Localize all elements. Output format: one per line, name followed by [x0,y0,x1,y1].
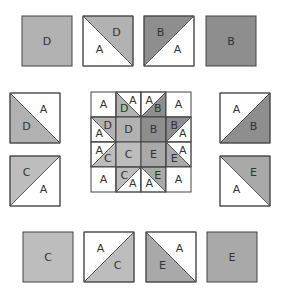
patch-label: D [120,102,128,115]
patch-label: B [150,123,158,136]
left-col-patch: CA [10,156,60,206]
bottom-row-patch: C [23,232,73,282]
patch-label: A [179,144,187,157]
top-row-patch: D [22,16,72,66]
patch-label: A [97,242,105,255]
patch-label: B [154,102,162,115]
patch-label: A [129,177,137,190]
bottom-row-patch: E [207,232,257,282]
center-block-cell: A [166,92,191,117]
patch-label: B [170,119,178,132]
patch-label: C [44,251,52,264]
patch-label: A [175,98,183,111]
center-block-cell: A [91,92,116,117]
patch-label: D [124,123,132,136]
patch-label: D [43,35,51,48]
patch-label: D [112,26,120,39]
patch-label: A [233,183,241,196]
center-block-cell: B [141,117,166,142]
patch-label: C [114,259,122,272]
patch-label: B [250,120,258,133]
patch-label: C [104,152,112,165]
quilt-diagram: DDABABCACAEEADCAABEAAADABADADBBAACCEAEAC… [0,0,287,308]
patch-label: A [96,43,104,56]
patch-label: B [227,35,235,48]
top-row-patch: DA [83,16,133,66]
center-block-cell: EA [141,167,166,192]
patch-label: A [129,94,137,107]
patch-label: E [250,166,257,179]
patch-label: A [145,177,153,190]
patch-label: A [95,144,103,157]
bottom-row-patch: AE [146,232,196,282]
top-row-patch: B [206,16,256,66]
left-col-patch: AD [10,93,60,143]
patch-label: A [179,127,187,140]
patch-label: C [23,166,31,179]
patch-label: D [22,120,30,133]
patch-label: A [174,43,182,56]
patch-label: D [104,119,112,132]
center-block-cell: A [166,167,191,192]
center-block-cell: BA [166,117,191,142]
top-row-patch: BA [144,16,194,66]
patch-label: E [171,152,178,165]
center-block-cell: AC [91,142,116,167]
center-block-cell: AD [116,92,141,117]
patch-label: E [159,259,166,272]
patch-label: A [100,98,108,111]
center-block-cell: DA [91,117,116,142]
patch-label: E [150,148,157,161]
patch-label: A [176,242,184,255]
center-block-cell: E [141,142,166,167]
patch-label: A [95,127,103,140]
bottom-row-patch: AC [84,232,134,282]
right-col-patch: EA [220,156,270,206]
patch-label: C [125,148,133,161]
patch-label: E [154,169,161,182]
center-block-cell: A [91,167,116,192]
patch-label: A [175,173,183,186]
center-block-cell: AB [141,92,166,117]
patch-label: E [229,251,236,264]
patch-label: A [145,94,153,107]
center-block-cell: D [116,117,141,142]
right-col-patch: AB [220,93,270,143]
center-block-cell: AE [166,142,191,167]
patch-label: A [40,183,48,196]
patch-label: A [40,103,48,116]
patch-label: A [233,103,241,116]
patch-label: B [157,26,165,39]
patch-label: C [120,169,128,182]
patch-label: A [100,173,108,186]
center-block-cell: C [116,142,141,167]
center-block-cell: CA [116,167,141,192]
